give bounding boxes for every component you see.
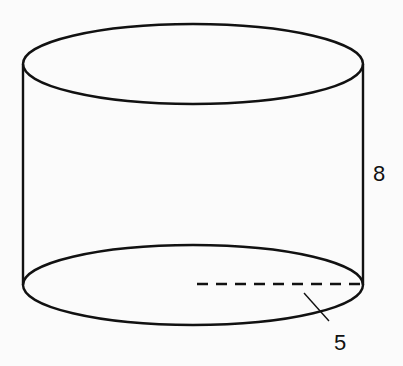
radius-leader-line — [304, 293, 329, 321]
height-label: 8 — [373, 161, 385, 186]
top-face-ellipse — [23, 24, 363, 104]
cylinder-diagram: 8 5 — [0, 0, 403, 366]
radius-label: 5 — [334, 330, 346, 355]
